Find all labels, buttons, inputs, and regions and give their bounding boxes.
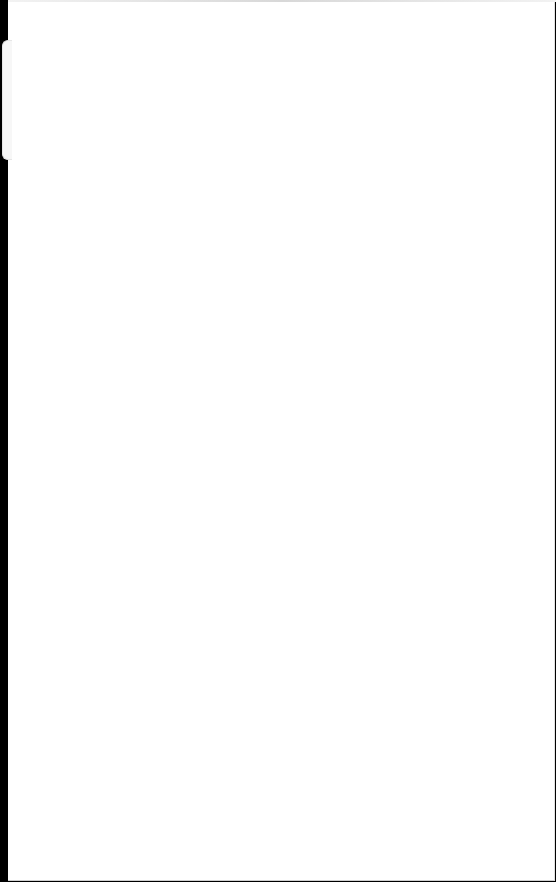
top-edge-strip [8, 0, 556, 2]
screen [0, 0, 556, 882]
blank-page [8, 0, 555, 881]
side-drawer-handle[interactable] [2, 40, 12, 160]
